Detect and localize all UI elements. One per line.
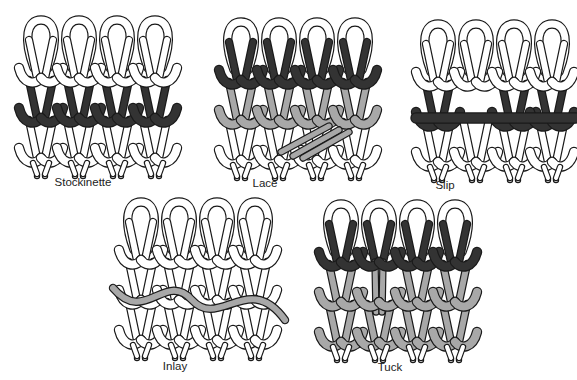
slip-stitch-diagram <box>412 22 567 182</box>
stockinette-stitch-diagram <box>15 18 170 178</box>
tuck-stitch-diagram <box>315 202 470 362</box>
label-lace: Lace <box>253 177 278 189</box>
inlay-stitch-diagram <box>115 200 270 360</box>
label-inlay: Inlay <box>163 360 187 372</box>
lace-stitch-diagram <box>215 20 370 180</box>
label-stockinette: Stockinette <box>55 176 112 188</box>
label-tuck: Tuck <box>378 361 403 373</box>
label-slip: Slip <box>435 179 454 191</box>
